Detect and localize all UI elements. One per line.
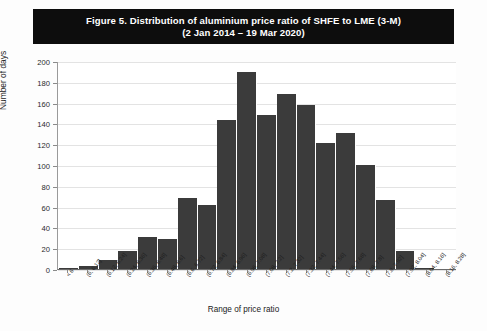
bar-slot bbox=[297, 62, 317, 269]
y-tick-label: 200 bbox=[37, 58, 50, 67]
bar bbox=[277, 94, 297, 269]
bar bbox=[237, 72, 257, 269]
y-axis-ticks: 020406080100120140160180200 bbox=[0, 62, 57, 270]
figure-title-line-2: (2 Jan 2014 – 19 Mar 2020) bbox=[182, 27, 305, 39]
bar-slot bbox=[158, 62, 178, 269]
y-tick-label: 180 bbox=[37, 78, 50, 87]
bar-slot bbox=[138, 62, 158, 269]
bar-slot bbox=[198, 62, 218, 269]
bar-slot bbox=[316, 62, 336, 269]
y-tick-label: 20 bbox=[42, 245, 50, 254]
bar-slot bbox=[257, 62, 277, 269]
bar-slot bbox=[336, 62, 356, 269]
y-tick-label: 160 bbox=[37, 99, 50, 108]
bar-slot bbox=[118, 62, 138, 269]
y-tick-label: 80 bbox=[42, 182, 50, 191]
bar-series bbox=[58, 62, 456, 269]
bar-slot bbox=[396, 62, 416, 269]
bar-slot bbox=[79, 62, 99, 269]
y-tick-label: 140 bbox=[37, 120, 50, 129]
y-tick-label: 60 bbox=[42, 203, 50, 212]
bar-slot bbox=[435, 62, 455, 269]
bar-slot bbox=[237, 62, 257, 269]
bar-slot bbox=[277, 62, 297, 269]
y-tick-label: 100 bbox=[37, 162, 50, 171]
y-tick-label: 0 bbox=[46, 266, 50, 275]
x-axis-label: Range of price ratio bbox=[0, 305, 487, 314]
bar-slot bbox=[415, 62, 435, 269]
bar bbox=[257, 115, 277, 269]
bar bbox=[297, 105, 317, 269]
figure-title-banner: Figure 5. Distribution of aluminium pric… bbox=[33, 9, 454, 44]
bar-slot bbox=[99, 62, 119, 269]
y-tick-label: 40 bbox=[42, 224, 50, 233]
bar-slot bbox=[59, 62, 79, 269]
bar-slot bbox=[356, 62, 376, 269]
bar bbox=[316, 143, 336, 269]
bar-slot bbox=[376, 62, 396, 269]
y-tick-label: 120 bbox=[37, 141, 50, 150]
bar-slot bbox=[178, 62, 198, 269]
bar bbox=[217, 120, 237, 269]
figure-title-line-1: Figure 5. Distribution of aluminium pric… bbox=[86, 15, 401, 27]
plot-area bbox=[57, 62, 456, 270]
bar bbox=[336, 133, 356, 269]
bar-slot bbox=[217, 62, 237, 269]
figure-container: Figure 5. Distribution of aluminium pric… bbox=[0, 0, 487, 331]
